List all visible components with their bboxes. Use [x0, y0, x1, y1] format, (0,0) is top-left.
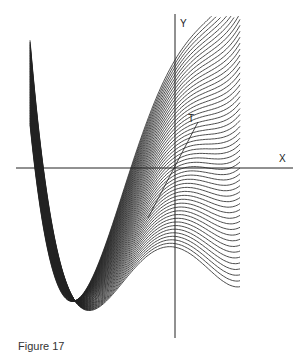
curve-family: [30, 16, 240, 310]
figure-caption: Figure 17: [18, 340, 64, 352]
tangent-label: T: [188, 113, 194, 124]
y-axis-label: Y: [180, 18, 187, 29]
x-axis-label: X: [279, 153, 286, 164]
